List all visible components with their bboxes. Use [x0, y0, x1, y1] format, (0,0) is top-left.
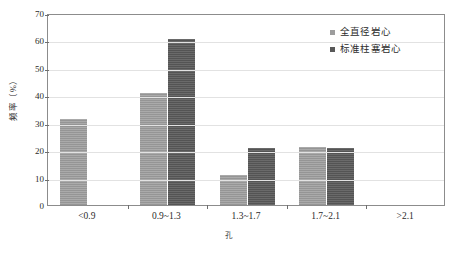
legend-label: 全直径岩心: [340, 27, 391, 38]
bar: [140, 93, 167, 205]
y-axis-tick-labels: 010203040506070: [20, 14, 44, 206]
bar-chart: 频率（%） 010203040506070 <0.90.9~1.31.3~1.7…: [0, 0, 456, 255]
gridline: [48, 97, 444, 98]
x-axis-tick-mark: [128, 205, 129, 209]
y-axis-tick-label: 20: [20, 147, 44, 156]
x-axis-title: 孔: [0, 231, 456, 240]
y-axis-tick-mark: [45, 42, 49, 43]
y-axis-tick-label: 50: [20, 64, 44, 73]
x-axis-tick-mark: [287, 205, 288, 209]
chart-legend: 全直径岩心标准柱塞岩心: [330, 24, 440, 58]
x-axis-tick-label: 0.9~1.3: [152, 210, 181, 222]
bar: [327, 148, 354, 205]
legend-swatch-icon: [330, 47, 335, 52]
legend-label: 标准柱塞岩心: [340, 44, 401, 55]
x-axis-tick-label: <0.9: [78, 210, 95, 222]
x-axis-tick-mark: [366, 205, 367, 209]
y-axis-tick-mark: [45, 125, 49, 126]
gridline: [48, 152, 444, 153]
gridline: [48, 70, 444, 71]
gridline: [48, 180, 444, 181]
y-axis-title: 频率（%）: [6, 58, 18, 138]
y-axis-tick-mark: [45, 15, 49, 16]
x-axis-tick-label: >2.1: [397, 210, 414, 222]
gridline: [48, 125, 444, 126]
y-axis-tick-label: 0: [20, 202, 44, 211]
y-axis-tick-mark: [45, 180, 49, 181]
y-axis-tick-label: 40: [20, 92, 44, 101]
y-axis-tick-label: 10: [20, 174, 44, 183]
legend-item: 标准柱塞岩心: [330, 41, 440, 57]
y-axis-tick-mark: [45, 152, 49, 153]
y-axis-tick-label: 30: [20, 119, 44, 128]
bar: [60, 119, 87, 205]
y-axis-tick-label: 60: [20, 37, 44, 46]
y-axis-tick-mark: [45, 97, 49, 98]
legend-item: 全直径岩心: [330, 24, 440, 40]
x-axis-tick-labels: <0.90.9~1.31.3~1.71.7~2.1>2.1: [47, 210, 445, 226]
x-axis-tick-label: 1.7~2.1: [311, 210, 340, 222]
y-axis-tick-mark: [45, 70, 49, 71]
x-axis-tick-label: 1.3~1.7: [232, 210, 261, 222]
bar: [299, 147, 326, 205]
legend-swatch-icon: [330, 30, 335, 35]
bar: [248, 148, 275, 205]
x-axis-tick-mark: [207, 205, 208, 209]
y-axis-tick-label: 70: [20, 10, 44, 19]
